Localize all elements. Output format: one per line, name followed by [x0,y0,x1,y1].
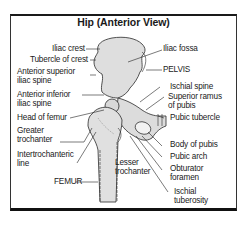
label-ischial-spine: Ischial spine [170,83,213,92]
label-femur: FEMUR [54,178,82,187]
label-line: line [17,160,74,169]
label-line: trochanter [17,136,52,145]
label-line: iliac spine [17,77,75,86]
label-line: of pubis [168,102,222,111]
label-line: iliac spine [17,100,70,109]
label-pubic-arch: Pubic arch [170,153,207,162]
label-line: tuberosity [174,197,208,206]
label-iliac-fossa: Iliac fossa [163,45,198,54]
label-line: foramen [170,174,203,183]
pelvis-illustration [94,37,145,98]
label-head-of-femur: Head of femur [17,114,67,123]
label-ischial-tuberosity: Ischial tuberosity [174,188,208,205]
label-line: trochanter [115,168,150,177]
label-pelvis: PELVIS [163,66,190,75]
label-greater-trochanter: Greater trochanter [17,127,52,144]
label-tubercle-of-crest: Tubercle of crest [30,56,88,65]
label-pubic-tubercle: Pubic tubercle [170,114,220,123]
label-lesser-trochanter: Lesser trochanter [115,159,150,176]
label-superior-ramus-of-pubis: Superior ramus of pubis [168,93,222,110]
label-intertrochanteric-line: Intertrochanteric line [17,151,74,168]
label-anterior-inferior-iliac-spine: Anterior inferior iliac spine [17,91,70,108]
label-iliac-crest: Iliac crest [52,45,85,54]
label-anterior-superior-iliac-spine: Anterior superior iliac spine [17,68,75,85]
label-body-of-pubis: Body of pubis [170,141,218,150]
label-obturator-foramen: Obturator foramen [170,165,203,182]
